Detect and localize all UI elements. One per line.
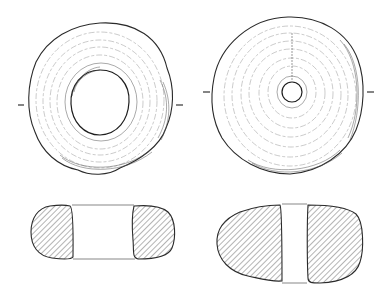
whorl-1-section [31, 205, 175, 259]
whorl-1-section-left [31, 205, 73, 259]
whorl-2-section [217, 204, 363, 283]
whorl-1-perforation [71, 70, 129, 135]
whorl-1-section-right [132, 206, 174, 259]
drawing-canvas [0, 0, 386, 295]
whorl-2-perforation [282, 82, 302, 102]
whorl-1-plan [18, 23, 183, 174]
whorl-2-section-left [217, 205, 282, 281]
whorl-2-section-right [307, 205, 362, 283]
whorl-2-plan [203, 17, 374, 174]
